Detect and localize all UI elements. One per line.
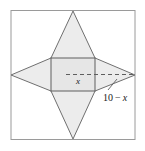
label-remaining-prefix: 10	[103, 92, 113, 103]
label-remaining-length: 10−x	[103, 92, 128, 103]
label-remaining-operator: −	[115, 92, 121, 103]
geometry-figure: x 10−x	[0, 0, 145, 151]
label-side-x: x	[75, 76, 80, 86]
label-remaining-variable: x	[122, 92, 128, 103]
figure-canvas: x 10−x	[0, 0, 145, 151]
